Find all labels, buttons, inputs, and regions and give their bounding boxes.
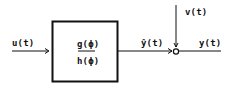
block-denominator: h(ϕ) (77, 56, 99, 66)
block-numerator: g(ϕ) (77, 39, 99, 49)
noise-signal-label: v(t) (185, 7, 207, 17)
input-signal-label: u(t) (12, 38, 34, 48)
output-signal-label: y(t) (199, 38, 221, 48)
summing-junction (173, 49, 178, 54)
noise-arrow (174, 5, 178, 47)
input-arrow (12, 49, 49, 54)
intermediate-signal-label: ŷ(t) (141, 38, 163, 48)
intermediate-arrow (118, 49, 172, 54)
